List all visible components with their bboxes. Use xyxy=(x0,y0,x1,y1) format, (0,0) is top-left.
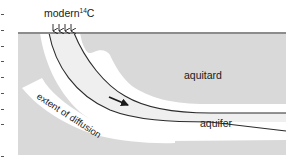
cropped-text-mark xyxy=(1,93,4,94)
cropped-text-mark xyxy=(1,109,4,110)
cropped-text-mark xyxy=(1,61,4,62)
diagram-canvas: modern14C aquitard aquifer extent of dif… xyxy=(0,0,308,163)
aquifer-label: aquifer xyxy=(200,117,233,129)
cropped-text-mark xyxy=(1,46,4,47)
aquifer-cross-section: modern14C aquitard aquifer extent of dif… xyxy=(0,0,308,163)
cropped-text-mark xyxy=(1,156,4,157)
cropped-text-mark xyxy=(1,30,4,31)
recharge-arrows-icon xyxy=(53,24,71,31)
aquitard-label: aquitard xyxy=(184,69,222,81)
cropped-text-mark xyxy=(1,124,4,125)
cropped-text-mark xyxy=(1,14,4,15)
modern-14c-label: modern14C xyxy=(44,7,95,19)
cropped-text-mark xyxy=(1,77,4,78)
